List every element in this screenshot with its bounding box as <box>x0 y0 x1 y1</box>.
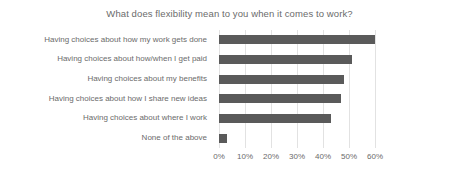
category-label: Having choices about where I work <box>83 114 207 122</box>
x-tick-label: 40% <box>315 152 331 161</box>
category-label: Having choices about my benefits <box>87 75 207 83</box>
category-label-row: Having choices about my benefits <box>0 69 213 89</box>
category-label-row: Having choices about how/when I get paid <box>0 50 213 70</box>
x-tick-label: 30% <box>289 152 305 161</box>
bar-row[interactable] <box>219 30 375 50</box>
category-label: Having choices about how/when I get paid <box>57 55 207 63</box>
x-tick-label: 10% <box>237 152 253 161</box>
bar[interactable] <box>219 94 341 103</box>
category-label-row: Having choices about where I work <box>0 109 213 129</box>
bars-layer <box>219 30 375 148</box>
x-axis-tick-labels: 0%10%20%30%40%50%60% <box>219 152 379 166</box>
category-label-row: Having choices about how I share new ide… <box>0 89 213 109</box>
category-label-row: None of the above <box>0 128 213 148</box>
plot-area <box>219 30 375 148</box>
bar[interactable] <box>219 114 331 123</box>
category-label: Having choices about how my work gets do… <box>44 36 207 44</box>
bar-row[interactable] <box>219 109 375 129</box>
bar-chart-figure: What does flexibility mean to you when i… <box>0 0 459 184</box>
bar-row[interactable] <box>219 89 375 109</box>
gridline-60 <box>375 30 376 148</box>
bar[interactable] <box>219 75 344 84</box>
chart-title: What does flexibility mean to you when i… <box>0 8 459 19</box>
bar-row[interactable] <box>219 50 375 70</box>
bar[interactable] <box>219 55 352 64</box>
bar[interactable] <box>219 134 227 143</box>
x-tick-label: 0% <box>213 152 225 161</box>
category-label: None of the above <box>142 134 207 142</box>
x-tick-label: 20% <box>263 152 279 161</box>
bar-row[interactable] <box>219 128 375 148</box>
category-label: Having choices about how I share new ide… <box>49 95 207 103</box>
x-tick-label: 60% <box>367 152 383 161</box>
bar[interactable] <box>219 35 375 44</box>
x-tick-label: 50% <box>341 152 357 161</box>
category-axis-labels: Having choices about how my work gets do… <box>0 30 213 148</box>
bar-row[interactable] <box>219 69 375 89</box>
category-label-row: Having choices about how my work gets do… <box>0 30 213 50</box>
